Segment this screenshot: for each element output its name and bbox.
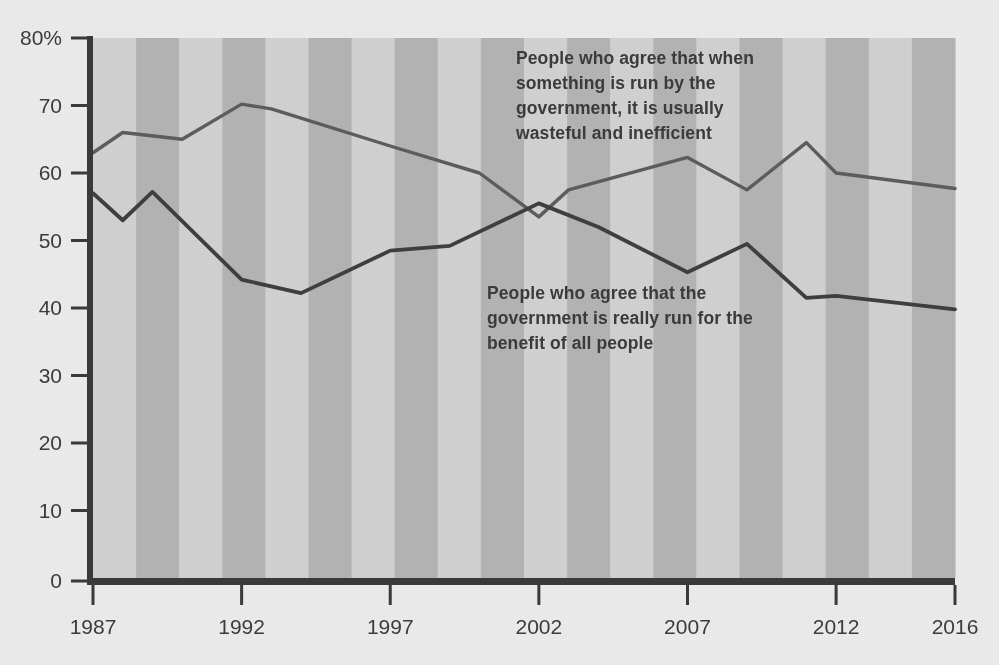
background-band bbox=[438, 38, 482, 578]
x-tick-label: 1987 bbox=[70, 615, 117, 638]
annotation-wasteful-inefficient: People who agree that when something is … bbox=[516, 46, 786, 145]
x-axis-baseline bbox=[87, 578, 955, 585]
background-band bbox=[309, 38, 353, 578]
background-band bbox=[869, 38, 913, 578]
x-tick-label: 1997 bbox=[367, 615, 414, 638]
x-tick-label: 2007 bbox=[664, 615, 711, 638]
x-tick-label: 2012 bbox=[813, 615, 860, 638]
background-band bbox=[93, 38, 137, 578]
y-tick-label: 0 bbox=[50, 569, 62, 592]
background-band bbox=[395, 38, 439, 578]
y-tick-label: 60 bbox=[39, 161, 62, 184]
x-axis-ticks: 1987199219972002200720122016 bbox=[70, 585, 979, 638]
background-band bbox=[352, 38, 396, 578]
y-axis-spine bbox=[87, 36, 93, 584]
y-tick-label: 70 bbox=[39, 94, 62, 117]
y-tick-label: 10 bbox=[39, 499, 62, 522]
background-band bbox=[826, 38, 870, 578]
x-tick-label: 2002 bbox=[516, 615, 563, 638]
y-tick-label: 50 bbox=[39, 229, 62, 252]
x-tick-label: 1992 bbox=[218, 615, 265, 638]
annotation-benefit-all-people: People who agree that the government is … bbox=[487, 281, 755, 356]
chart-figure: 01020304050607080% 198719921997200220072… bbox=[0, 0, 999, 665]
x-tick-label: 2016 bbox=[932, 615, 979, 638]
background-band bbox=[136, 38, 180, 578]
background-band bbox=[783, 38, 827, 578]
y-tick-label: 40 bbox=[39, 296, 62, 319]
y-tick-label: 30 bbox=[39, 364, 62, 387]
y-axis-ticks: 01020304050607080% bbox=[20, 26, 87, 592]
background-band bbox=[222, 38, 266, 578]
y-tick-label: 80% bbox=[20, 26, 62, 49]
y-tick-label: 20 bbox=[39, 431, 62, 454]
